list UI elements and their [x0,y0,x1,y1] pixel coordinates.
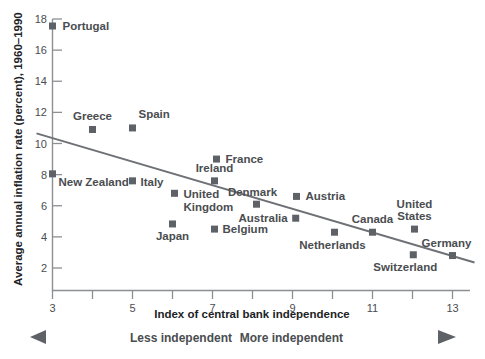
y-axis-title: Average annual inflation rate (percent),… [12,12,24,286]
y-axis-ticks: 24681012141618 [35,13,62,274]
data-point-marker[interactable] [292,215,299,222]
data-point-marker[interactable] [449,252,456,259]
data-point-marker[interactable] [129,177,136,184]
data-points-layer: PortugalGreeceSpainNew ZealandItalyFranc… [49,20,472,273]
data-point-label: Italy [141,176,165,188]
more-independent-label: More independent [240,331,343,345]
x-axis-title: Index of central bank independence [154,308,350,320]
y-tick-label: 14 [35,75,47,87]
data-point-marker[interactable] [169,220,176,227]
data-point-marker[interactable] [331,229,338,236]
scatter-plot: Average annual inflation rate (percent),… [0,0,485,359]
y-tick-label: 2 [41,262,47,274]
data-point-label: United [397,198,433,210]
chart-container: Average annual inflation rate (percent),… [0,0,485,359]
x-tick-label: 3 [49,302,55,314]
data-point-label: Switzerland [373,261,437,273]
data-point-label: Portugal [63,20,110,32]
data-point-label: Germany [422,237,472,249]
data-point-label: Greece [73,110,112,122]
data-point-label: Ireland [196,162,234,174]
data-point-label: Kingdom [184,201,234,213]
y-tick-label: 4 [41,231,47,243]
data-point-marker[interactable] [253,201,260,208]
data-point-label: Spain [139,108,170,120]
y-tick-label: 6 [41,200,47,212]
data-point-label: Belgium [223,223,268,235]
x-tick-label: 11 [367,302,378,314]
x-tick-label: 9 [289,302,295,314]
data-point-marker[interactable] [369,229,376,236]
y-tick-label: 16 [35,44,47,56]
data-point-label: Canada [352,213,394,225]
data-point-marker[interactable] [49,23,56,30]
less-independent-label: Less independent [130,331,232,345]
x-tick-label: 5 [129,302,135,314]
data-point-marker[interactable] [171,190,178,197]
data-point-marker[interactable] [410,251,417,258]
x-tick-label: 7 [209,302,215,314]
data-point-label: Netherlands [299,239,365,251]
data-point-label: United [184,188,220,200]
x-tick-label: 13 [446,302,458,314]
data-point-marker[interactable] [211,177,218,184]
data-point-label: Denmark [228,186,278,198]
y-tick-label: 18 [35,13,47,25]
data-point-marker[interactable] [89,126,96,133]
y-tick-label: 10 [35,138,47,150]
data-point-marker[interactable] [211,226,218,233]
less-independent-arrow [30,330,110,344]
data-point-label: States [397,210,432,222]
data-point-label: Austria [306,190,346,202]
data-point-marker[interactable] [49,170,56,177]
data-point-marker[interactable] [293,193,300,200]
data-point-marker[interactable] [411,226,418,233]
data-point-label: Japan [156,230,189,242]
more-independent-arrow [355,330,456,344]
y-tick-label: 8 [41,169,47,181]
y-tick-label: 12 [35,106,47,118]
data-point-marker[interactable] [129,124,136,131]
data-point-label: New Zealand [59,176,129,188]
